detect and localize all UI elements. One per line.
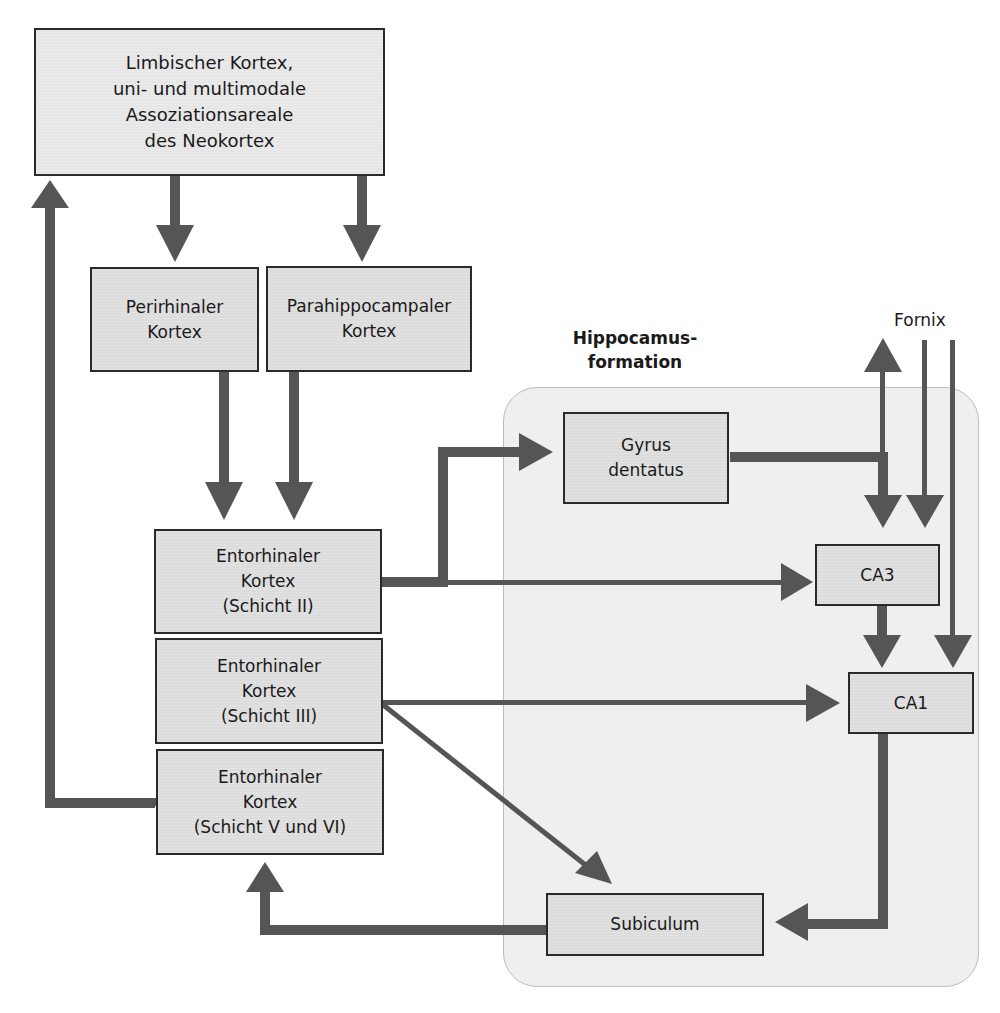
- node-ca3: CA3: [815, 544, 940, 606]
- node-parahippocampal-cortex: Parahippocampaler Kortex: [266, 266, 472, 372]
- node-perirhinal-cortex: Perirhinaler Kortex: [90, 267, 259, 372]
- node-entorhinal-layer-5-6: Entorhinaler Kortex (Schicht V und VI): [156, 749, 384, 855]
- node-entorhinal-layer-2: Entorhinaler Kortex (Schicht II): [154, 529, 382, 634]
- node-ca1: CA1: [848, 672, 974, 734]
- node-neocortex: Limbischer Kortex, uni- und multimodale …: [34, 28, 385, 176]
- node-entorhinal-layer-3: Entorhinaler Kortex (Schicht III): [155, 638, 383, 744]
- node-subiculum: Subiculum: [546, 893, 764, 956]
- node-gyrus-dentatus: Gyrus dentatus: [563, 412, 729, 504]
